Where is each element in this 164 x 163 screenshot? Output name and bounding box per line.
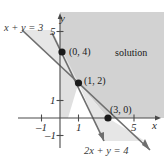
x-tick-label-1: 1	[76, 122, 82, 133]
line-label-2x-plus-y-equals-4: 2x + y = 4	[84, 146, 129, 157]
point-1-2	[75, 79, 82, 86]
solution-region	[60, 12, 164, 118]
point-0-4	[58, 48, 65, 55]
y-tick-label--1: –1	[45, 130, 56, 141]
solution-region-label: solution	[115, 48, 147, 58]
y-tick-label-1: 1	[50, 95, 56, 106]
y-axis-label: y	[60, 13, 65, 24]
point-label-0-4: (0, 4)	[69, 47, 91, 57]
arrowhead-line-2x-plus-y	[98, 132, 104, 141]
x-tick-label-5: 5	[131, 122, 137, 133]
graph-figure: x + y = 3 2x + y = 4 y x –1 1 5 5 1 –1 (…	[0, 0, 164, 163]
point-label-3-0: (3, 0)	[110, 105, 132, 115]
point-3-0	[104, 114, 111, 121]
point-label-1-2: (1, 2)	[84, 76, 106, 86]
y-tick-label-5: 5	[50, 26, 56, 37]
line-label-x-plus-y-equals-3: x + y = 3	[4, 23, 43, 34]
x-axis-label: x	[152, 120, 157, 131]
